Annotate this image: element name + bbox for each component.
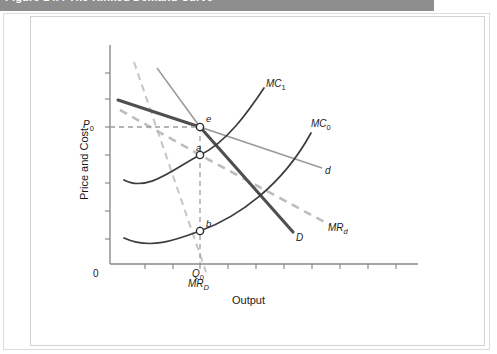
page-frame-inner [30,16,485,346]
figure-caption-bar: Figure 14.4 The Kinked Demand Curve [0,0,434,11]
figure-page: Figure 14.4 The Kinked Demand Curve [0,0,497,354]
figure-caption-text: Figure 14.4 The Kinked Demand Curve [5,0,213,3]
